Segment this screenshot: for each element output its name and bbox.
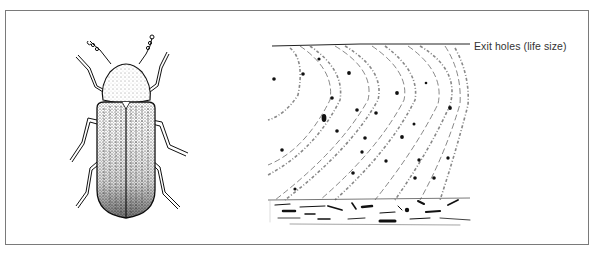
exit-hole — [351, 171, 355, 175]
exit-hole — [301, 72, 305, 76]
exit-hole — [400, 135, 404, 139]
exit-hole — [347, 71, 351, 75]
exit-hole — [355, 108, 359, 112]
wood-sample — [268, 44, 470, 225]
exit-hole — [432, 176, 436, 180]
wood-end-grain — [270, 200, 470, 225]
exit-hole — [405, 208, 409, 212]
exit-holes — [272, 57, 452, 212]
exit-hole — [395, 91, 399, 95]
exit-hole — [293, 187, 296, 190]
beetle-antennae — [87, 35, 154, 64]
exit-hole — [417, 158, 420, 161]
exit-hole — [413, 176, 417, 180]
exit-hole — [448, 106, 452, 110]
exit-hole — [360, 150, 363, 153]
exit-hole — [363, 136, 367, 140]
exit-hole — [374, 111, 378, 115]
beetle-illustration — [70, 35, 188, 218]
exit-hole — [446, 156, 449, 159]
wood-grain-lines — [268, 46, 468, 200]
exit-hole — [322, 114, 327, 122]
exit-hole — [384, 159, 387, 162]
figure-illustration — [0, 0, 598, 254]
figure-caption: Exit holes (life size) — [474, 40, 567, 52]
exit-hole — [330, 96, 334, 100]
exit-hole — [413, 123, 416, 126]
exit-hole — [317, 57, 320, 60]
exit-hole — [335, 129, 339, 133]
exit-hole — [280, 148, 284, 152]
exit-hole — [425, 82, 428, 85]
beetle-pronotum — [102, 64, 150, 103]
exit-hole — [272, 77, 276, 81]
